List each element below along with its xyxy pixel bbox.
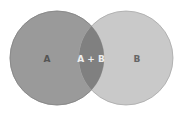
intersection-label: A + B <box>77 54 105 64</box>
venn-diagram: A A + B B <box>0 0 182 116</box>
set-b-label: B <box>134 54 141 64</box>
set-a-label: A <box>44 54 51 64</box>
